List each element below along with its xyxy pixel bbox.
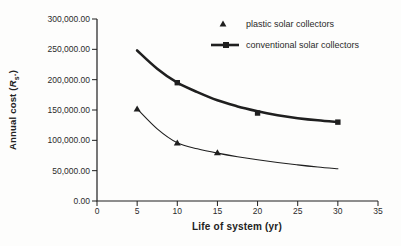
triangle-data-marker	[134, 106, 141, 112]
y-axis-tick-label: 0.00	[73, 196, 90, 206]
y-axis-title-subscript: s	[13, 76, 20, 80]
y-axis-tick-label: 100,000.00	[47, 135, 90, 145]
x-axis-tick-label: 15	[213, 206, 223, 216]
y-axis-tick-label: 50,000.00	[52, 166, 90, 176]
legend: plastic solar collectors conventional so…	[210, 14, 359, 56]
y-axis-tick-label: 150,000.00	[47, 105, 90, 115]
x-axis-tick-label: 10	[173, 206, 183, 216]
chart-figure: 0.0050,000.00100,000.00150,000.00200,000…	[0, 0, 401, 246]
y-axis-tick-label: 200,000.00	[47, 75, 90, 85]
square-data-marker	[175, 80, 180, 85]
x-axis-tick-label: 30	[333, 206, 343, 216]
legend-label-conventional: conventional solar collectors	[246, 40, 359, 50]
x-axis-tick-label: 25	[293, 206, 303, 216]
y-axis-title-symbol: R	[7, 80, 18, 87]
legend-item-plastic: plastic solar collectors	[210, 14, 359, 34]
triangle-data-marker	[174, 140, 181, 146]
triangle-marker-icon	[210, 18, 240, 30]
square-data-marker	[255, 110, 260, 115]
y-axis-title: Annual cost (Rs.)	[7, 30, 21, 190]
x-axis-title: Life of system (yr)	[137, 221, 337, 232]
x-axis-tick-label: 20	[253, 206, 263, 216]
y-axis-tick-label: 250,000.00	[47, 44, 90, 54]
y-axis-tick-label: 300,000.00	[47, 14, 90, 24]
y-axis-title-prefix: Annual cost (	[7, 87, 18, 150]
series-line-triangle	[137, 109, 338, 169]
line-square-marker-icon	[210, 39, 240, 51]
square-data-marker	[335, 119, 340, 124]
x-axis-tick-label: 5	[135, 206, 140, 216]
legend-item-conventional: conventional solar collectors	[210, 35, 359, 55]
x-axis-tick-label: 35	[373, 206, 383, 216]
x-axis-tick-label: 0	[95, 206, 100, 216]
y-axis-title-suffix: .)	[7, 70, 18, 76]
legend-label-plastic: plastic solar collectors	[246, 19, 334, 29]
series-line-square	[137, 51, 338, 123]
